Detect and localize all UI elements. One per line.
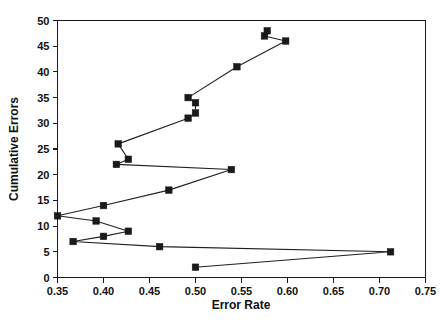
data-point-marker: Error Rate 0.427, Cumulative Errors 23	[125, 156, 132, 163]
data-point-marker: Error Rate 0.712, Cumulative Errors 5	[387, 249, 394, 256]
x-tick-label: 0.50	[185, 285, 206, 297]
chart-figure: 0.350.400.450.500.550.600.650.700.75 051…	[0, 0, 444, 321]
data-point-marker: Error Rate 0.471, Cumulative Errors 17	[166, 187, 173, 194]
data-point-marker: Error Rate 0.400, Cumulative Errors 8	[100, 233, 107, 240]
data-point-marker: Error Rate 0.545, Cumulative Errors 41	[234, 63, 241, 70]
x-tick-label: 0.70	[369, 285, 390, 297]
y-tick-label: 20	[37, 169, 49, 181]
y-tick-label: 40	[37, 66, 49, 78]
data-point-marker: Error Rate 0.539, Cumulative Errors 21	[228, 166, 235, 173]
x-tick-label: 0.65	[323, 285, 344, 297]
data-point-marker: Error Rate 0.416, Cumulative Errors 26	[115, 141, 122, 148]
y-tick-label: 0	[43, 272, 49, 284]
data-point-marker: Error Rate 0.400, Cumulative Errors 14	[100, 202, 107, 209]
y-tick-label: 10	[37, 220, 49, 232]
data-point-marker: Error Rate 0.427, Cumulative Errors 9	[125, 228, 132, 235]
data-point-marker: Error Rate 0.578, Cumulative Errors 48	[264, 27, 271, 34]
x-tick-label: 0.45	[139, 285, 160, 297]
x-tick-label: 0.35	[47, 285, 68, 297]
data-point-marker: Error Rate 0.500, Cumulative Errors 34	[192, 99, 199, 106]
data-point-marker: Error Rate 0.492, Cumulative Errors 35	[185, 94, 192, 101]
y-tick-label: 35	[37, 92, 49, 104]
data-point-marker: Error Rate 0.492, Cumulative Errors 31	[185, 115, 192, 122]
x-tick-label: 0.55	[231, 285, 252, 297]
x-tick-label: 0.40	[93, 285, 114, 297]
data-point-marker: Error Rate 0.414, Cumulative Errors 22	[113, 161, 120, 168]
data-point-marker: Error Rate 0.350, Cumulative Errors 12	[54, 213, 61, 220]
data-point-marker: Error Rate 0.500, Cumulative Errors 2	[192, 264, 199, 271]
x-axis-tick-labels: 0.350.400.450.500.550.600.650.700.75	[47, 285, 436, 297]
data-point-marker: Error Rate 0.598, Cumulative Errors 46	[282, 38, 289, 45]
y-tick-label: 30	[37, 117, 49, 129]
x-axis-title: Error Rate	[212, 298, 271, 312]
x-tick-label: 0.60	[277, 285, 298, 297]
y-tick-label: 50	[37, 15, 49, 27]
data-point-marker: Error Rate 0.500, Cumulative Errors 32	[192, 110, 199, 117]
chart-background	[0, 0, 444, 321]
data-point-marker: Error Rate 0.461, Cumulative Errors 6	[156, 243, 163, 250]
data-point-marker: Error Rate 0.392, Cumulative Errors 11	[93, 218, 100, 225]
y-tick-label: 5	[43, 246, 49, 258]
y-tick-label: 15	[37, 194, 49, 206]
y-tick-label: 45	[37, 40, 49, 52]
x-tick-label: 0.75	[415, 285, 436, 297]
data-point-marker: Error Rate 0.367, Cumulative Errors 7	[70, 238, 77, 245]
y-tick-label: 25	[37, 143, 49, 155]
y-axis-title: Cumulative Errors	[7, 97, 21, 201]
scatter-line-chart: 0.350.400.450.500.550.600.650.700.75 051…	[0, 0, 444, 321]
